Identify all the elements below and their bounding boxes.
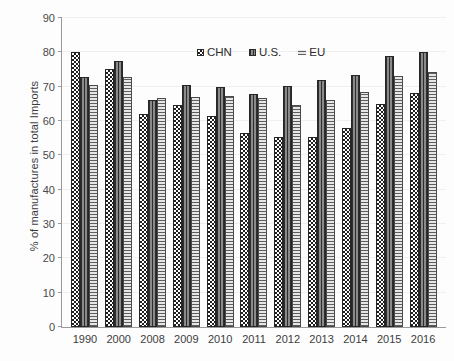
- bar-group: 2016: [406, 18, 440, 327]
- y-axis-tick-label: 80: [43, 46, 55, 58]
- bar-chart: % of manufactures in total Imports 01020…: [0, 0, 454, 361]
- y-axis-tick-label: 40: [43, 184, 55, 196]
- bar-group: 1990: [68, 18, 102, 327]
- plot-area: 0102030405060708090 19902000200820092010…: [61, 18, 446, 328]
- bar-us: [114, 61, 123, 327]
- x-axis-tick-label: 2011: [242, 333, 266, 345]
- y-axis-tick-label: 90: [43, 12, 55, 24]
- bar-us: [351, 75, 360, 327]
- bar-eu: [360, 92, 369, 327]
- bar-chn: [105, 69, 114, 327]
- y-axis-tick-label: 0: [49, 321, 55, 333]
- legend-swatch-us-icon: [249, 49, 256, 56]
- bar-eu: [191, 97, 200, 327]
- bar-group: 2012: [271, 18, 305, 327]
- bar-eu: [157, 98, 166, 327]
- bar-us: [182, 85, 191, 327]
- bar-eu: [394, 76, 403, 327]
- bar-group: 2010: [203, 18, 237, 327]
- y-axis-tick-label: 50: [43, 149, 55, 161]
- bar-chn: [207, 116, 216, 327]
- bar-eu: [292, 105, 301, 327]
- legend-item-us: U.S.: [249, 46, 281, 58]
- bar-eu: [428, 72, 437, 327]
- legend-label: CHN: [207, 46, 232, 58]
- bar-chn: [342, 128, 351, 327]
- bar-us: [80, 77, 89, 327]
- x-axis-tick-label: 2009: [174, 333, 198, 345]
- bar-eu: [326, 100, 335, 327]
- legend-label: EU: [309, 46, 325, 58]
- y-axis-tick-label: 70: [43, 81, 55, 93]
- legend-swatch-eu-icon: [298, 50, 306, 55]
- bar-group: 2014: [339, 18, 373, 327]
- y-axis-tick-label: 60: [43, 115, 55, 127]
- bar-us: [249, 94, 258, 327]
- legend-label: U.S.: [259, 46, 281, 58]
- bar-us: [283, 86, 292, 327]
- bar-us: [317, 80, 326, 327]
- legend-item-chn: CHN: [197, 46, 232, 58]
- legend-swatch-chn-icon: [197, 49, 204, 56]
- y-axis-tick-label: 20: [43, 252, 55, 264]
- bar-chn: [376, 104, 385, 327]
- bar-group: 2013: [305, 18, 339, 327]
- bar-chn: [410, 93, 419, 327]
- bar-us: [385, 56, 394, 327]
- y-axis-tick-label: 30: [43, 218, 55, 230]
- bar-group: 2008: [136, 18, 170, 327]
- x-axis-tick-label: 2012: [276, 333, 300, 345]
- bar-chn: [274, 137, 283, 327]
- bar-chn: [173, 105, 182, 327]
- y-axis-tick-label: 10: [43, 287, 55, 299]
- bar-eu: [89, 85, 98, 327]
- bar-group: 2000: [102, 18, 136, 327]
- x-axis-tick-label: 2010: [208, 333, 232, 345]
- bar-eu: [258, 98, 267, 327]
- bar-us: [148, 100, 157, 327]
- bar-group: 2011: [237, 18, 271, 327]
- bar-chn: [308, 137, 317, 327]
- bar-chn: [71, 52, 80, 327]
- bar-us: [216, 87, 225, 327]
- x-axis-tick-label: 2014: [343, 333, 367, 345]
- x-axis-tick-label: 2013: [309, 333, 333, 345]
- legend-item-eu: EU: [298, 46, 325, 58]
- chart-legend: CHNU.S.EU: [197, 46, 325, 58]
- bar-eu: [123, 77, 132, 327]
- x-axis-tick-label: 2016: [411, 333, 435, 345]
- bar-groups: 1990200020082009201020112012201320142015…: [62, 18, 446, 327]
- bar-us: [419, 52, 428, 327]
- bar-group: 2015: [372, 18, 406, 327]
- bar-chn: [139, 114, 148, 327]
- bar-eu: [225, 96, 234, 327]
- x-axis-tick-label: 2008: [140, 333, 164, 345]
- x-axis-tick-label: 2015: [377, 333, 401, 345]
- x-axis-tick-label: 1990: [73, 333, 97, 345]
- bar-chn: [240, 133, 249, 327]
- y-axis-title: % of manufactures in total Imports: [28, 36, 40, 296]
- x-axis-tick-label: 2000: [106, 333, 130, 345]
- bar-group: 2009: [169, 18, 203, 327]
